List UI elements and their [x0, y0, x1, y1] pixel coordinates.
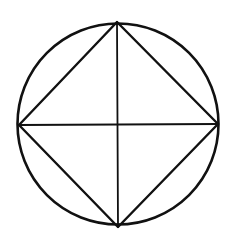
diagram-canvas [0, 0, 228, 237]
horizontal-diagonal [19, 124, 218, 125]
